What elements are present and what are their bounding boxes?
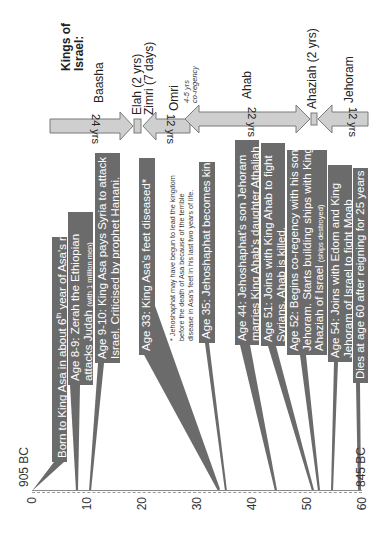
king-omri: Omri — [167, 85, 181, 111]
baasha-years: 24 yrs — [90, 114, 102, 144]
king-jehoram: Jehoram — [342, 56, 356, 103]
coregency-note: 4-5 yrs co-regency — [183, 66, 199, 103]
king-zimri: Zimri (7 days) — [142, 42, 156, 115]
jehoram-years: 12 yrs — [347, 107, 359, 137]
king-baasha: Baasha — [92, 62, 106, 103]
king-ahaziah: Ahaziah (2 yrs) — [305, 28, 319, 109]
king-ahab: Ahab — [240, 71, 254, 99]
coregency-line: co-regency — [191, 66, 199, 103]
jehoram-arrow — [318, 105, 368, 133]
ahaziah-box — [311, 113, 317, 125]
ahab-years: 22 yrs — [246, 107, 258, 137]
asa-jehoshaphat-timeline: 0 10 20 30 40 50 60 905 BC 845 BC Born t… — [0, 0, 390, 543]
omri-years: 12 yrs — [165, 114, 177, 144]
elah-zimri-box — [134, 119, 141, 133]
